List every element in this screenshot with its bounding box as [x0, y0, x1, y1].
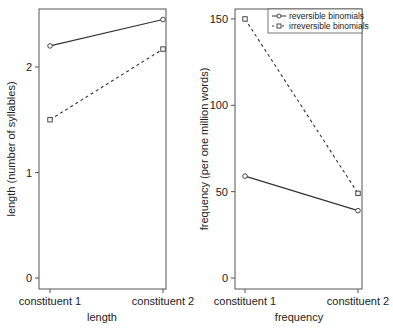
x-tick-label: constituent 1: [19, 295, 81, 307]
x-axis-label: length: [87, 311, 117, 323]
plot-frame: [235, 9, 362, 289]
circle-marker-icon: [356, 208, 361, 213]
y-tick-label: 100: [210, 99, 228, 111]
square-marker-icon: [277, 24, 281, 28]
x-axis-ticks: constituent 1constituent 2: [19, 289, 194, 307]
circle-marker-icon: [277, 14, 281, 18]
y-axis-label: length (number of syllables): [5, 81, 17, 216]
y-tick-label: 1: [26, 167, 32, 179]
series-reversible-binomials: [243, 174, 361, 213]
x-axis-label: frequency: [275, 311, 324, 323]
y-tick-label: 2: [26, 61, 32, 73]
length-chart: 012 constituent 1constituent 2 length le…: [5, 9, 194, 323]
plot-frame: [39, 9, 166, 289]
legend: reversible binomials irreversible binomi…: [268, 9, 369, 33]
circle-marker-icon: [161, 17, 166, 22]
circle-marker-icon: [48, 44, 53, 49]
x-tick-label: constituent 2: [327, 295, 389, 307]
x-tick-label: constituent 1: [214, 295, 276, 307]
square-marker-icon: [161, 47, 165, 51]
circle-marker-icon: [243, 174, 248, 179]
square-marker-icon: [243, 17, 247, 21]
frequency-chart: 050100150 constituent 1constituent 2 fre…: [198, 9, 389, 323]
series-irreversible-binomials: [48, 47, 165, 122]
series-lines: [243, 17, 361, 213]
figure: 012 constituent 1constituent 2 length le…: [0, 0, 393, 331]
y-axis-ticks: 012: [26, 61, 39, 284]
x-axis-ticks: constituent 1constituent 2: [214, 289, 389, 307]
y-axis-label: frequency (per one million words): [198, 68, 210, 231]
series-irreversible-binomials: [243, 17, 360, 196]
square-marker-icon: [48, 118, 52, 122]
series-reversible-binomials: [48, 17, 166, 48]
y-axis-ticks: 050100150: [210, 13, 235, 284]
y-tick-label: 50: [216, 186, 228, 198]
y-tick-label: 0: [222, 272, 228, 284]
y-tick-label: 150: [210, 13, 228, 25]
svg-text:irreversible binomials: irreversible binomials: [289, 21, 369, 31]
svg-text:reversible binomials: reversible binomials: [289, 11, 364, 21]
series-lines: [48, 17, 166, 122]
x-tick-label: constituent 2: [132, 295, 194, 307]
square-marker-icon: [356, 191, 360, 195]
y-tick-label: 0: [26, 272, 32, 284]
